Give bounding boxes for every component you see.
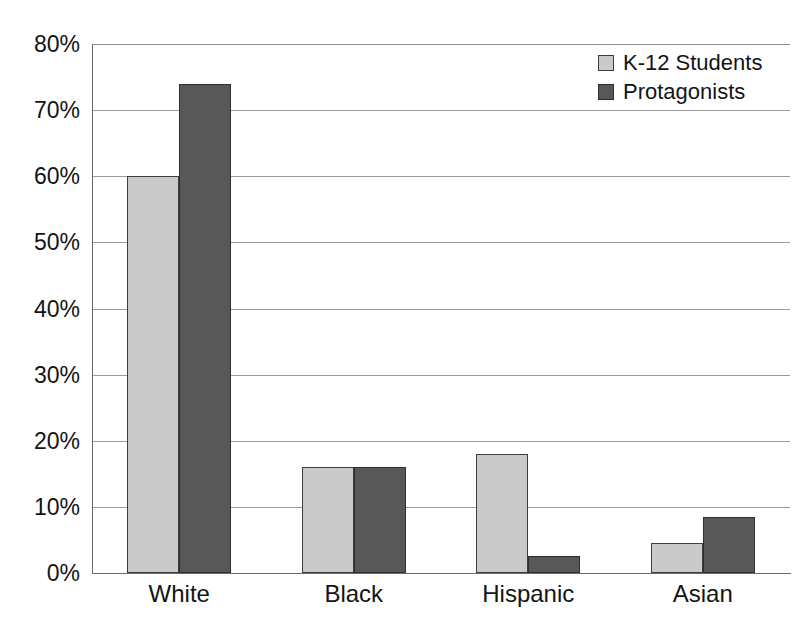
y-tick-label: 40% — [0, 297, 80, 320]
bar-black-k12[interactable] — [302, 467, 354, 573]
legend-label-protagonists: Protagonists — [623, 81, 745, 103]
x-axis-line — [92, 573, 791, 574]
x-tick-label-hispanic: Hispanic — [482, 582, 574, 606]
y-tick-label: 0% — [0, 562, 80, 585]
legend-swatch-icon-k12 — [598, 55, 614, 71]
bar-black-protagonists[interactable] — [354, 467, 406, 573]
bar-asian-protagonists[interactable] — [703, 517, 755, 573]
y-tick-label: 10% — [0, 495, 80, 518]
y-tick-label: 50% — [0, 231, 80, 254]
y-tick-label: 70% — [0, 99, 80, 122]
bar-white-k12[interactable] — [127, 176, 179, 573]
x-tick-label-asian: Asian — [673, 582, 733, 606]
y-tick-label: 30% — [0, 363, 80, 386]
bar-chart: 80%70%60%50%40%30%20%10%0% WhiteBlackHis… — [0, 0, 799, 633]
x-tick-label-white: White — [149, 582, 210, 606]
bar-asian-k12[interactable] — [651, 543, 703, 573]
y-tick-label: 20% — [0, 429, 80, 452]
legend-item-1[interactable]: Protagonists — [598, 77, 798, 106]
legend-item-0[interactable]: K-12 Students — [598, 48, 798, 77]
x-tick-label-black: Black — [324, 582, 383, 606]
y-tick-label: 60% — [0, 165, 80, 188]
bar-hispanic-protagonists[interactable] — [528, 556, 580, 573]
bar-white-protagonists[interactable] — [179, 84, 231, 573]
plot-area — [92, 44, 790, 573]
legend: K-12 Students Protagonists — [598, 48, 798, 106]
legend-swatch-icon-protagonists — [598, 84, 614, 100]
legend-label-k12: K-12 Students — [623, 52, 762, 74]
y-tick-label: 80% — [0, 33, 80, 56]
bar-hispanic-k12[interactable] — [476, 454, 528, 573]
